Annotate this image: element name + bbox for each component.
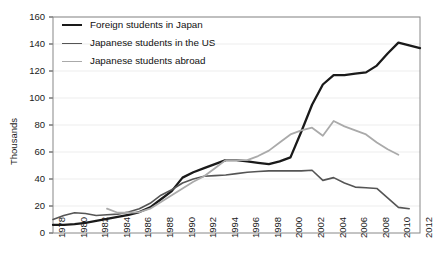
- x-tick-label: 2012: [424, 217, 434, 238]
- legend-line-swatch: [62, 61, 82, 62]
- x-tick-label: 1978: [57, 217, 67, 238]
- y-tick-marks: [49, 17, 53, 233]
- y-tick-label: 100: [15, 93, 45, 103]
- x-tick-label: 2008: [381, 217, 391, 238]
- y-tick-label: 160: [15, 12, 45, 22]
- x-tick-label: 1998: [273, 217, 283, 238]
- y-tick-label: 20: [15, 201, 45, 211]
- y-tick-label: 0: [15, 228, 45, 238]
- y-tick-label: 40: [15, 174, 45, 184]
- legend-item-label: Japanese students abroad: [90, 56, 205, 66]
- y-tick-label: 80: [15, 120, 45, 130]
- x-tick-label: 1988: [165, 217, 175, 238]
- x-tick-label: 2006: [359, 217, 369, 238]
- x-tick-label: 1984: [122, 217, 132, 238]
- x-tick-label: 2000: [294, 217, 304, 238]
- legend-line-swatch: [62, 24, 82, 26]
- y-tick-label: 120: [15, 66, 45, 76]
- x-tick-label: 2002: [316, 217, 326, 238]
- x-tick-label: 1986: [143, 217, 153, 238]
- x-tick-label: 1990: [187, 217, 197, 238]
- legend-item: Japanese students abroad: [62, 55, 215, 67]
- legend-item-label: Japanese students in the US: [90, 38, 215, 48]
- x-tick-label: 1992: [208, 217, 218, 238]
- chart-legend: Foreign students in JapanJapanese studen…: [62, 19, 215, 67]
- x-tick-label: 1994: [230, 217, 240, 238]
- legend-line-swatch: [62, 43, 82, 44]
- legend-item: Japanese students in the US: [62, 37, 215, 49]
- y-tick-label: 60: [15, 147, 45, 157]
- series-line-2: [53, 170, 409, 219]
- data-series-group: [53, 43, 420, 225]
- legend-item-label: Foreign students in Japan: [90, 20, 203, 30]
- y-tick-label: 140: [15, 39, 45, 49]
- x-tick-label: 2010: [402, 217, 412, 238]
- x-tick-label: 1982: [100, 217, 110, 238]
- series-line-3: [107, 121, 398, 213]
- x-tick-label: 1996: [251, 217, 261, 238]
- x-tick-label: 2004: [338, 217, 348, 238]
- x-tick-label: 1980: [79, 217, 89, 238]
- legend-item: Foreign students in Japan: [62, 19, 215, 31]
